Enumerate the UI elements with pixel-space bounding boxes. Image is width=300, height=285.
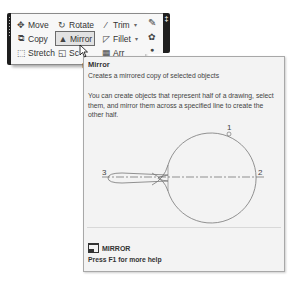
fillet-icon: ◸ bbox=[101, 34, 111, 44]
mirror-icon: ▲ bbox=[58, 34, 68, 44]
tooltip-title: Mirror bbox=[88, 60, 110, 69]
explode-icon[interactable]: ✿ bbox=[148, 32, 156, 42]
point-label-2: 2 bbox=[258, 168, 263, 177]
tooltip-command: MIRROR bbox=[88, 243, 130, 253]
mirror-illustration: 1 2 3 bbox=[84, 117, 284, 227]
rotate-button[interactable]: ↻ Rotate bbox=[57, 18, 94, 31]
tooltip-short-description: Creates a mirrored copy of selected obje… bbox=[88, 72, 219, 79]
mouse-cursor-icon bbox=[79, 44, 89, 58]
fillet-button[interactable]: ◸ Fillet ▾ bbox=[101, 32, 138, 45]
tooltip-help-hint: Press F1 for more help bbox=[88, 256, 162, 263]
mirror-tooltip: Mirror Creates a mirrored copy of select… bbox=[83, 56, 285, 272]
pin-icon[interactable]: ‡ bbox=[164, 16, 169, 26]
ribbon-extra-tools: ✎ ✿ ● bbox=[144, 13, 163, 54]
scale-button[interactable]: ◱ Sc bbox=[57, 46, 79, 59]
mirror-button[interactable]: ▲ Mirror bbox=[55, 31, 95, 46]
pencil-icon[interactable]: ✎ bbox=[148, 17, 156, 28]
move-icon: ✥ bbox=[16, 20, 26, 30]
move-button[interactable]: ✥ Move bbox=[16, 18, 49, 31]
point-label-3: 3 bbox=[102, 168, 107, 177]
chevron-down-icon[interactable]: ▾ bbox=[135, 35, 138, 42]
command-line-icon bbox=[88, 243, 99, 253]
offset-icon[interactable]: ● bbox=[150, 46, 154, 53]
copy-icon: ⧉ bbox=[16, 34, 26, 44]
trim-icon: ⁄ bbox=[101, 20, 111, 30]
stretch-button[interactable]: ⬚ Stretch bbox=[16, 46, 55, 59]
rotate-icon: ↻ bbox=[57, 20, 67, 30]
tooltip-separator bbox=[87, 227, 281, 228]
copy-button[interactable]: ⧉ Copy bbox=[16, 32, 48, 45]
trim-button[interactable]: ⁄ Trim ▾ bbox=[101, 18, 137, 31]
chevron-down-icon[interactable]: ▾ bbox=[134, 21, 137, 28]
ribbon-panel-grip-right[interactable]: ‡ bbox=[163, 13, 170, 53]
tooltip-long-description: You can create objects that represent ha… bbox=[88, 91, 280, 120]
stretch-icon: ⬚ bbox=[16, 48, 26, 58]
scale-icon: ◱ bbox=[57, 48, 67, 58]
point-label-1: 1 bbox=[227, 123, 232, 132]
